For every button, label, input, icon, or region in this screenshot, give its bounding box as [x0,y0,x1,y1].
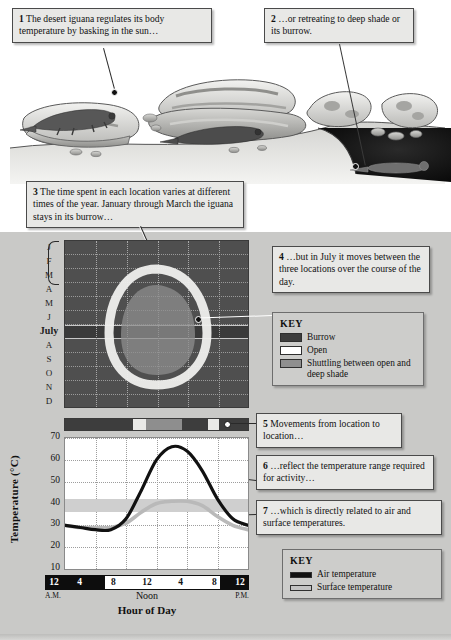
key-label-air: Air temperature [317,569,376,580]
callout-4: 4 …but in July it moves between the thre… [272,246,430,293]
temperature-key-box: KEY Air temperature Surface temperature [282,549,442,599]
hour-tick-1: 4 [72,576,88,589]
month-label-july: July [36,324,62,338]
callout-3-number: 3 [33,186,38,197]
callout-6-text: …reflect the temperature range required … [263,460,425,483]
callout-7: 7 …which is directly related to air and … [256,500,442,535]
daily-location-strip [64,418,249,431]
hour-tick-0: 12 [46,576,62,589]
strip-segment-shuttling [146,419,183,430]
hour-tick-4: 4 [173,576,189,589]
key-label-surface: Surface temperature [317,582,392,593]
key-row-air: Air temperature [290,569,434,580]
month-label-o: O [36,366,62,380]
swatch-burrow [280,333,302,342]
key-label-shuttling: Shuttling between open and deep shade [307,358,416,380]
y-tick-60: 60 [34,453,60,463]
strip-segment-open [208,419,219,430]
month-label-n: N [36,380,62,394]
y-tick-70: 70 [34,431,60,441]
hour-axis-sublabels: A.M.NoonP.M. [45,591,249,603]
callout-1: 1 The desert iguana regulates its body t… [12,8,212,43]
month-label-s: S [36,352,62,366]
y-axis-ticks: 70605040302010 [34,437,60,570]
leader-dot-2 [352,163,359,170]
leader-dot-1 [111,89,118,96]
hour-axis-bar: 1248124812 [45,575,249,590]
callout-5: 5 Movements from location to location… [256,413,402,448]
hour-sublabel-noon: Noon [136,590,158,601]
strip-segment-open [133,419,146,430]
key-row-shuttling: Shuttling between open and deep shade [280,358,416,380]
hour-tick-6: 12 [232,576,248,589]
swatch-open [280,346,302,355]
callout-6: 6 …reflect the temperature range require… [256,455,434,490]
iguana-habitat-illustration [0,56,451,184]
y-tick-30: 30 [34,518,60,528]
callout-3: 3 The time spent in each location varies… [26,181,244,228]
month-label-m: M [36,296,62,310]
swatch-shuttling [280,359,302,368]
callout-2-number: 2 [271,13,276,24]
key-label-burrow: Burrow [307,332,335,343]
callout-2-text: …or retreating to deep shade or its burr… [271,13,400,36]
swatch-air-temperature [290,572,312,578]
callout-6-number: 6 [263,460,268,471]
y-tick-20: 20 [34,540,60,550]
y-tick-40: 40 [34,497,60,507]
hour-sublabel-pm: P.M. [235,591,249,600]
temperature-chart [64,437,249,570]
location-regions [65,241,249,408]
month-label-a: A [36,338,62,352]
y-axis-title: Temperature (°C) [8,455,20,543]
callout-1-number: 1 [19,13,24,24]
callout-7-number: 7 [263,505,268,516]
temperature-curves [65,438,248,569]
callout-4-text: …but in July it moves between the three … [279,251,421,287]
key-row-open: Open [280,345,416,356]
x-axis-title: Hour of Day [45,604,249,616]
callout-5-number: 5 [263,418,268,429]
location-key-box: KEY Burrow Open Shuttling between open a… [272,312,424,386]
key-label-open: Open [307,345,327,356]
hour-tick-5: 8 [206,576,222,589]
month-label-j: J [36,310,62,324]
leader-line-5 [228,423,256,424]
y-tick-10: 10 [34,562,60,572]
callout-5-text: Movements from location to location… [263,418,380,441]
y-tick-50: 50 [34,475,60,485]
strip-segment-burrow [182,419,208,430]
callout-2: 2 …or retreating to deep shade or its bu… [264,8,414,43]
hour-sublabel-am: A.M. [45,591,61,600]
callout-1-text: The desert iguana regulates its body tem… [19,13,164,36]
rock-center [149,80,306,145]
key-row-surface: Surface temperature [290,582,434,593]
hour-tick-3: 12 [139,576,155,589]
swatch-surface-temperature [290,585,312,591]
rock-left [20,103,139,147]
leader-dot-4 [195,316,202,323]
leader-dot-5 [224,421,231,428]
month-label-d: D [36,394,62,408]
key-row-burrow: Burrow [280,332,416,343]
strip-segment-burrow [65,419,133,430]
callout-3-text: The time spent in each location varies a… [33,186,233,222]
callout-7-text: …which is directly related to air and su… [263,505,411,528]
location-by-month-chart [64,240,249,408]
jan-mar-brace [48,241,59,285]
callout-4-number: 4 [279,251,284,262]
temperature-key-title: KEY [290,555,434,566]
hour-tick-2: 8 [105,576,121,589]
daylight-segment [105,576,220,589]
y-gridline [65,569,248,570]
location-key-title: KEY [280,318,416,329]
